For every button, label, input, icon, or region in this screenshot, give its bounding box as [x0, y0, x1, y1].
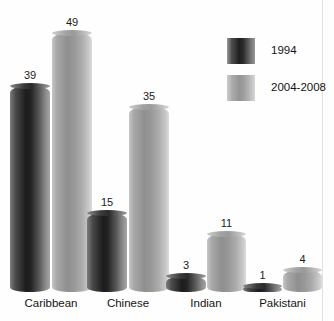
bar-value-pakistani-2004-2008: 4	[299, 254, 305, 265]
bar-chart: 39 49 15 35 3 11 1	[0, 0, 334, 321]
legend-label-2004-2008: 2004-2008	[271, 82, 326, 94]
legend-swatch-2004-2008-icon	[227, 75, 255, 101]
bar-value-caribbean-1994: 39	[24, 70, 36, 81]
axis-label-indian: Indian	[166, 298, 246, 310]
bar-value-chinese-1994: 15	[101, 197, 113, 208]
bar-indian-2004-2008[interactable]: 11	[207, 234, 246, 292]
bar-value-indian-2004-2008: 11	[221, 218, 232, 229]
legend-swatch-1994-icon	[227, 38, 255, 64]
legend: 1994 2004-2008	[227, 38, 326, 112]
bar-chinese-1994[interactable]: 15	[87, 213, 127, 292]
bar-group-caribbean: 39 49	[10, 0, 92, 292]
bar-caribbean-2004-2008[interactable]: 49	[52, 33, 92, 292]
bar-indian-1994[interactable]: 3	[166, 276, 206, 292]
axis-label-pakistani: Pakistani	[243, 298, 322, 310]
bar-value-pakistani-1994: 1	[259, 270, 265, 281]
bar-value-caribbean-2004-2008: 49	[66, 17, 78, 28]
legend-label-1994: 1994	[271, 45, 297, 57]
bar-value-indian-1994: 3	[183, 260, 189, 271]
bar-value-chinese-2004-2008: 35	[143, 91, 155, 102]
axis-label-chinese: Chinese	[87, 298, 169, 310]
bar-chinese-2004-2008[interactable]: 35	[129, 107, 169, 292]
legend-item-2004-2008[interactable]: 2004-2008	[227, 75, 326, 101]
bar-caribbean-1994[interactable]: 39	[10, 86, 50, 292]
bar-pakistani-2004-2008[interactable]: 4	[283, 270, 322, 292]
bar-group-chinese: 15 35	[87, 0, 169, 292]
axis-label-caribbean: Caribbean	[10, 298, 92, 310]
bar-pakistani-1994[interactable]: 1	[243, 286, 282, 292]
legend-item-1994[interactable]: 1994	[227, 38, 326, 64]
